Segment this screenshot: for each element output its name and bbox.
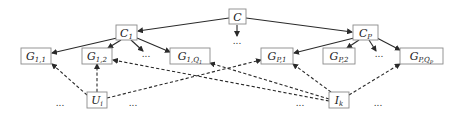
dashed-edge-ik-to-gp1 [293,64,331,92]
node-ui: Ui [87,92,107,108]
dashed-edge-ik-to-gpqp [349,64,400,95]
ellipsis-placeholder: ... [142,49,151,59]
node-c1: C1 [116,25,137,41]
dashed-edge-ui-to-gp1 [107,60,261,98]
edge-c-to-cp [246,18,352,32]
edge-c1-to-g12 [108,40,121,48]
diagram-canvas: CC1CPG1,1G1,2G1,Q1GP,1GP,2GP,QPUiIk ....… [0,0,460,120]
node-c: C [229,9,246,24]
ellipsis-placeholder: ... [296,98,305,108]
dashed-edge-ik-to-g12 [113,60,329,101]
node-g11: G1,1 [21,48,51,64]
node-gp2: GP,2 [323,48,355,64]
node-g1q1: G1,Q1 [170,48,210,65]
ellipsis-placeholder: ... [374,98,383,108]
dashed-edge-ui-to-g11 [52,64,87,95]
node-cp: CP [353,25,378,41]
hierarchy-diagram: CC1CPG1,1G1,2G1,Q1GP,1GP,2GP,QPUiIk ....… [0,0,460,120]
node-gp1: GP,1 [261,48,293,64]
edge-cp-to-gp2 [347,40,359,48]
node-label: C [233,11,242,24]
ellipsis-placeholder: ... [129,98,138,108]
ellipsis-placeholder: ... [56,98,65,108]
ellipsis-placeholder: ... [233,36,242,46]
node-g12: G1,2 [82,48,112,64]
ellipsis-placeholder: ... [375,49,384,59]
node-gpqp: GP,QP [400,48,443,65]
node-ik: Ik [329,92,349,108]
dashed-edge-ik-to-g1q1 [210,63,329,99]
edge-c-to-c1 [138,18,229,31]
